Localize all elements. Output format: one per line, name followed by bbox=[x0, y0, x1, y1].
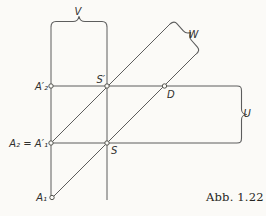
upper-diagonal-line bbox=[51, 24, 170, 143]
label-d: D bbox=[167, 89, 175, 100]
brace-w bbox=[170, 17, 204, 54]
label-a1: A₁ bbox=[35, 192, 47, 203]
point-a2-prime bbox=[49, 84, 53, 88]
figure-1-22: A′₂ A₂ = A′₁ A₁ S′ S D V W U Abb. 1.22 bbox=[0, 0, 266, 216]
point-a1 bbox=[50, 195, 54, 199]
label-a2-eq-a1-prime: A₂ = A′₁ bbox=[8, 138, 48, 149]
label-s-prime: S′ bbox=[96, 74, 105, 85]
label-strip-u: U bbox=[244, 108, 252, 119]
figure-caption: Abb. 1.22 bbox=[205, 190, 264, 204]
label-s: S bbox=[111, 145, 118, 156]
label-strip-w: W bbox=[189, 29, 200, 40]
geometry-diagram: A′₂ A₂ = A′₁ A₁ S′ S D V W U Abb. 1.22 bbox=[0, 0, 266, 216]
label-strip-v: V bbox=[75, 6, 83, 17]
point-a2-eq-a1-prime bbox=[49, 141, 53, 145]
point-s bbox=[105, 141, 109, 145]
lower-diagonal-line bbox=[52, 54, 196, 198]
point-s-prime bbox=[105, 84, 109, 88]
brace-v bbox=[51, 17, 107, 28]
label-a2-prime: A′₂ bbox=[34, 81, 48, 92]
